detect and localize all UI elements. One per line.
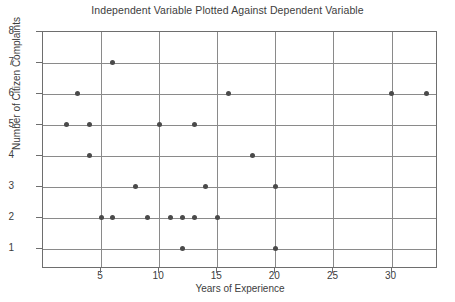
- data-point: [180, 246, 185, 251]
- data-point: [110, 60, 115, 65]
- data-point: [424, 91, 429, 96]
- y-tick-mark: [36, 155, 42, 156]
- y-tick-label: 6: [0, 88, 14, 98]
- data-point: [145, 215, 150, 220]
- x-axis-title: Years of Experience: [42, 283, 438, 294]
- x-tick-mark: [274, 268, 275, 273]
- data-point: [215, 215, 220, 220]
- data-point: [87, 153, 92, 158]
- data-point: [192, 122, 197, 127]
- x-tick-mark: [332, 268, 333, 273]
- y-tick-mark: [36, 31, 42, 32]
- y-tick-mark: [36, 217, 42, 218]
- data-point: [226, 91, 231, 96]
- gridline-vertical: [159, 32, 160, 267]
- data-point: [157, 122, 162, 127]
- gridline-vertical: [275, 32, 276, 267]
- y-tick-label: 2: [0, 212, 14, 222]
- gridline-vertical: [392, 32, 393, 267]
- data-point: [87, 122, 92, 127]
- data-point: [192, 215, 197, 220]
- plot-area: [42, 31, 437, 268]
- data-point: [75, 91, 80, 96]
- data-point: [273, 184, 278, 189]
- y-tick-label: 5: [0, 119, 14, 129]
- y-tick-label: 3: [0, 181, 14, 191]
- x-tick-mark: [391, 268, 392, 273]
- y-tick-mark: [36, 186, 42, 187]
- gridline-vertical: [217, 32, 218, 267]
- chart-title: Independent Variable Plotted Against Dep…: [0, 4, 455, 16]
- data-point: [64, 122, 69, 127]
- data-point: [133, 184, 138, 189]
- data-point: [99, 215, 104, 220]
- x-tick-mark: [158, 268, 159, 273]
- gridline-vertical: [333, 32, 334, 267]
- y-tick-mark: [36, 248, 42, 249]
- y-tick-label: 4: [0, 150, 14, 160]
- scatter-chart: Independent Variable Plotted Against Dep…: [0, 0, 455, 302]
- data-point: [110, 215, 115, 220]
- x-tick-mark: [100, 268, 101, 273]
- x-tick-mark: [216, 268, 217, 273]
- y-tick-label: 8: [0, 26, 14, 36]
- y-tick-label: 7: [0, 57, 14, 67]
- y-tick-mark: [36, 124, 42, 125]
- data-point: [273, 246, 278, 251]
- data-point: [168, 215, 173, 220]
- data-point: [180, 215, 185, 220]
- data-point: [203, 184, 208, 189]
- data-point: [389, 91, 394, 96]
- gridline-vertical: [101, 32, 102, 267]
- y-tick-label: 1: [0, 243, 14, 253]
- data-point: [250, 153, 255, 158]
- y-tick-mark: [36, 93, 42, 94]
- y-tick-mark: [36, 62, 42, 63]
